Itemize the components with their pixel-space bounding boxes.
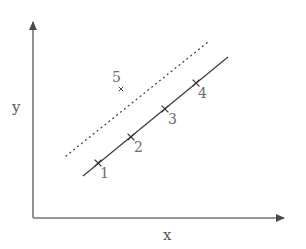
- data-lines-group: [66, 42, 228, 176]
- data-point-label-4: 4: [198, 86, 207, 100]
- y-axis-label: y: [12, 100, 20, 115]
- data-point-marker-5: [119, 87, 123, 91]
- x-axis-label: x: [163, 228, 171, 243]
- data-point-label-5: 5: [112, 70, 121, 84]
- data-point-label-3: 3: [168, 112, 177, 126]
- data-point-label-2: 2: [134, 140, 143, 154]
- plot-canvas: [0, 0, 306, 249]
- solid-regression-line: [83, 57, 228, 176]
- data-point-label-1: 1: [100, 166, 109, 180]
- axes-group: [33, 22, 284, 218]
- scatter-plot-figure: 12345 x y: [0, 0, 306, 249]
